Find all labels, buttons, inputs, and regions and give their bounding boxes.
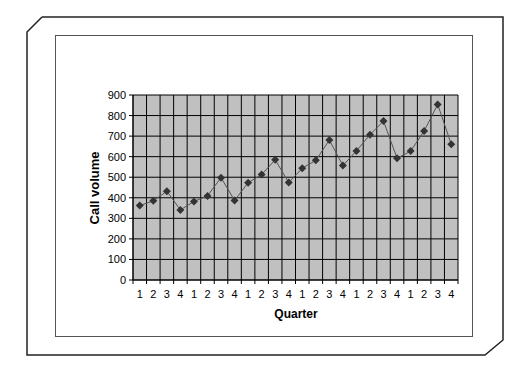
y-tick-label: 900 <box>108 89 126 101</box>
x-axis-label: Quarter <box>274 307 318 321</box>
x-tick-label: 1 <box>408 288 414 300</box>
x-tick-label: 3 <box>380 288 386 300</box>
y-tick-label: 200 <box>108 233 126 245</box>
x-tick-label: 2 <box>367 288 373 300</box>
x-tick-label: 2 <box>421 288 427 300</box>
y-tick-label: 800 <box>108 110 126 122</box>
x-tick-label: 3 <box>435 288 441 300</box>
x-tick-label: 1 <box>299 288 305 300</box>
y-axis: 0100200300400500600700800900 <box>108 89 133 286</box>
x-tick-label: 4 <box>448 288 454 300</box>
x-tick-label: 1 <box>191 288 197 300</box>
y-tick-label: 400 <box>108 192 126 204</box>
x-tick-label: 3 <box>272 288 278 300</box>
x-tick-label: 3 <box>164 288 170 300</box>
x-tick-label: 4 <box>232 288 238 300</box>
x-tick-label: 2 <box>259 288 265 300</box>
line-chart: 0100200300400500600700800900 12341234123… <box>0 0 527 374</box>
x-tick-label: 1 <box>245 288 251 300</box>
x-tick-label: 4 <box>340 288 346 300</box>
y-tick-label: 600 <box>108 151 126 163</box>
y-tick-label: 500 <box>108 171 126 183</box>
x-tick-label: 4 <box>394 288 400 300</box>
x-tick-label: 4 <box>177 288 183 300</box>
x-tick-label: 2 <box>204 288 210 300</box>
x-tick-label: 3 <box>218 288 224 300</box>
x-tick-label: 2 <box>313 288 319 300</box>
y-axis-label: Call volume <box>87 152 102 225</box>
y-tick-label: 100 <box>108 253 126 265</box>
x-tick-label: 4 <box>286 288 292 300</box>
x-tick-label: 2 <box>150 288 156 300</box>
y-tick-label: 0 <box>120 274 126 286</box>
x-tick-label: 3 <box>326 288 332 300</box>
x-axis: 123412341234123412341234 <box>133 280 458 300</box>
x-tick-label: 1 <box>353 288 359 300</box>
y-tick-label: 300 <box>108 212 126 224</box>
x-tick-label: 1 <box>137 288 143 300</box>
y-tick-label: 700 <box>108 130 126 142</box>
